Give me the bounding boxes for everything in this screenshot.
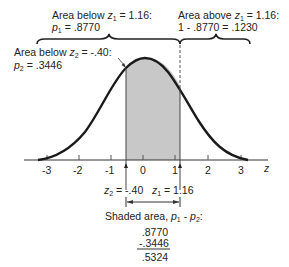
calc-line-2: -.3446 — [136, 237, 172, 249]
text: : — [200, 210, 203, 222]
p1-value-label: p1 = .8770 — [52, 21, 100, 37]
text: = 1.16: — [244, 9, 279, 21]
tick-label-2: 2 — [205, 164, 211, 176]
tick-label-1: 1 — [172, 164, 178, 176]
calc-result: .5324 — [138, 251, 172, 263]
p2-value-label: p2 = .3446 — [14, 59, 62, 75]
text: Area below — [52, 9, 107, 21]
area-above-z1-calc: 1 - .8770 = .1230 — [178, 21, 258, 33]
text: - — [181, 210, 190, 222]
tick-label-neg1: -1 — [105, 164, 114, 176]
leader-arrow-icon — [122, 63, 127, 68]
tick-label-neg3: -3 — [42, 164, 51, 176]
text: = -.40 — [113, 184, 143, 196]
text: = .8770 — [62, 21, 100, 33]
text: Area below — [14, 46, 69, 58]
tick-label-3: 3 — [238, 164, 244, 176]
z-markers-label: z2 = -.40 z1 = 1.16 — [104, 184, 194, 200]
z1-arrow-icon — [178, 163, 182, 168]
text: Area above — [178, 9, 235, 21]
shaded-area — [126, 58, 180, 160]
right-brace — [180, 34, 250, 44]
tick-label-neg2: -2 — [73, 164, 82, 176]
text: = 1.16 — [161, 184, 193, 196]
text: = -.40: — [79, 46, 112, 58]
tick-label-0: 0 — [140, 164, 146, 176]
z2-arrow-icon — [124, 163, 128, 168]
interval-left-arrowhead-icon — [127, 200, 133, 204]
text: = 1.16: — [117, 9, 152, 21]
shaded-area-label: Shaded area, p1 - p2: — [105, 210, 203, 226]
interval-right-arrowhead-icon — [173, 200, 179, 204]
axis-label-z: z — [264, 162, 269, 174]
text: = .3446 — [24, 59, 62, 71]
text: Shaded area, — [105, 210, 171, 222]
